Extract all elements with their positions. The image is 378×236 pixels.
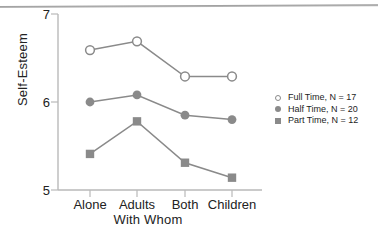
data-point-1-2 [181,111,190,120]
series-layer [86,37,237,182]
legend-label-half-time: Half Time, N = 20 [288,104,358,116]
filled-circle-icon [275,106,288,112]
data-point-2-1 [133,117,141,125]
data-point-0-0 [86,46,95,55]
chart-figure: Self-Esteem With Whom 7 6 5 Alone Adults… [0,0,378,236]
data-point-0-2 [181,72,190,81]
data-point-0-3 [228,72,237,81]
series-line-1 [90,95,232,120]
data-point-2-3 [228,173,236,181]
open-circle-icon [275,95,288,101]
legend-item-part-time: Part Time, N = 12 [275,115,358,127]
series-line-0 [90,41,232,76]
chart-legend: Full Time, N = 17 Half Time, N = 20 Part… [275,92,358,127]
x-tick-label-children: Children [202,197,262,212]
data-point-2-0 [86,150,94,158]
legend-label-full-time: Full Time, N = 17 [288,92,356,104]
y-tick-label-7: 7 [28,7,50,22]
data-point-1-3 [228,115,237,124]
series-line-2 [90,121,232,177]
legend-item-full-time: Full Time, N = 17 [275,92,358,104]
legend-label-part-time: Part Time, N = 12 [288,115,358,127]
data-point-1-0 [86,98,95,107]
y-tick-label-5: 5 [28,183,50,198]
legend-item-half-time: Half Time, N = 20 [275,104,358,116]
data-point-0-1 [133,37,142,46]
data-point-1-1 [133,91,142,100]
data-point-2-2 [181,159,189,167]
filled-square-icon [275,118,288,124]
x-axis-label: With Whom [58,212,238,227]
y-tick-label-6: 6 [28,95,50,110]
